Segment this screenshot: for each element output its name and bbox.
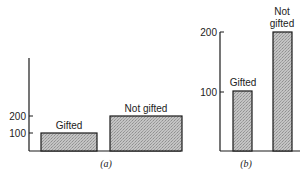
chart-a-tick-label-200: 200 — [9, 111, 26, 122]
chart-a-bar-label-not-gifted: Not gifted — [125, 103, 168, 114]
chart-a-bar-not-gifted — [110, 116, 182, 151]
chart-a-bar-gifted — [41, 133, 97, 151]
chart-b-bar-not-gifted — [273, 32, 292, 151]
chart-a-caption: (a) — [100, 158, 112, 170]
chart-b-bar-label-not-gifted-line1: Not — [274, 6, 290, 17]
chart-b-bar-gifted — [233, 91, 252, 151]
chart-b-caption: (b) — [240, 158, 252, 170]
chart-b-tick-label-100: 100 — [200, 87, 217, 98]
chart-b-tick-label-200: 200 — [200, 27, 217, 38]
chart-a-bar-label-gifted: Gifted — [56, 120, 83, 131]
chart-b-bar-label-not-gifted-line2: gifted — [270, 18, 294, 29]
chart-a-tick-label-100: 100 — [9, 128, 26, 139]
chart-a: 200 100 Gifted Not gifted (a) — [9, 58, 182, 170]
figure: 200 100 Gifted Not gifted (a) 200 100 Gi… — [0, 0, 307, 173]
chart-b-bar-label-gifted: Gifted — [230, 77, 257, 88]
chart-b: 200 100 Gifted Not gifted (b) — [200, 6, 300, 170]
